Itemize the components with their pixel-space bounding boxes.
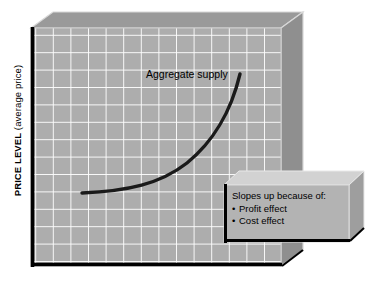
legend-top-face	[224, 171, 364, 185]
legend-text-block: Slopes up because of: •Profit effect •Co…	[232, 190, 326, 228]
curve-label: Aggregate supply	[146, 68, 228, 80]
bullet-icon: •	[232, 203, 239, 216]
slab-top-face	[31, 12, 303, 28]
legend-item-1-label: Cost effect	[239, 215, 284, 226]
legend-item-1: •Cost effect	[232, 215, 326, 228]
figure-canvas	[0, 0, 377, 290]
bullet-icon: •	[232, 215, 239, 228]
legend-item-0: •Profit effect	[232, 203, 326, 216]
y-axis-label-bold: PRICE LEVEL	[12, 133, 23, 196]
y-axis-label-regular: (average price)	[12, 65, 23, 133]
legend-heading: Slopes up because of:	[232, 190, 326, 203]
legend-item-0-label: Profit effect	[239, 203, 287, 214]
y-axis-label: PRICE LEVEL (average price)	[12, 31, 23, 231]
aggregate-supply-figure: PRICE LEVEL (average price) Aggregate su…	[0, 0, 377, 290]
